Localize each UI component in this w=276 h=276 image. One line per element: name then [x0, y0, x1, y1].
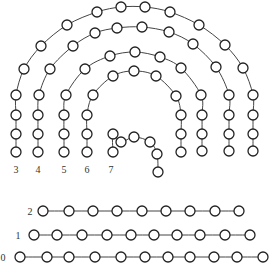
chain-node	[145, 137, 155, 147]
chain-1: 1	[16, 230, 256, 241]
chain-node	[59, 147, 69, 157]
chain-0: 0	[1, 252, 269, 263]
chain-label: 4	[36, 164, 41, 175]
chain-node	[116, 252, 126, 262]
chain-diagram: 34567210	[0, 0, 276, 276]
chain-node	[36, 41, 46, 51]
chain-node	[15, 252, 25, 262]
chain-node	[112, 23, 122, 33]
chain-node	[11, 129, 21, 139]
chain-node	[152, 149, 162, 159]
chain-node	[185, 252, 195, 262]
chain-node	[11, 147, 21, 157]
chain-node	[220, 40, 230, 50]
chain-3: 3	[11, 2, 258, 175]
chain-node	[116, 2, 126, 12]
chain-node	[62, 20, 72, 30]
chain-node	[165, 7, 175, 17]
chain-node	[11, 90, 21, 100]
chain-node	[102, 230, 112, 240]
chain-node	[137, 22, 147, 32]
chain-node	[176, 63, 186, 73]
chain-node	[155, 52, 165, 62]
chain-node	[248, 110, 258, 120]
chain-node	[90, 252, 100, 262]
chain-node	[52, 230, 62, 240]
chain-node	[195, 230, 205, 240]
chain-node	[248, 90, 258, 100]
chain-node	[82, 147, 92, 157]
chain-node	[64, 252, 74, 262]
chain-node	[211, 62, 221, 72]
chain-node	[33, 147, 43, 157]
chain-2: 2	[28, 206, 245, 217]
chain-node	[38, 206, 48, 216]
chain-node	[29, 230, 39, 240]
chain-node	[185, 206, 195, 216]
chain-label: 1	[16, 230, 21, 241]
chain-node	[59, 129, 69, 139]
chain-node	[210, 206, 220, 216]
chain-node	[197, 146, 207, 156]
chain-node	[33, 110, 43, 120]
chain-node	[68, 41, 78, 51]
chain-node	[258, 252, 268, 262]
chain-node	[176, 129, 186, 139]
chain-label: 3	[14, 164, 19, 175]
chain-node	[224, 110, 234, 120]
chain-node	[82, 110, 92, 120]
chain-node	[33, 129, 43, 139]
chain-node	[232, 252, 242, 262]
chain-node	[196, 90, 206, 100]
chain-node	[64, 206, 74, 216]
chain-node	[129, 132, 139, 142]
chain-node	[112, 206, 122, 216]
chain-label: 7	[109, 164, 114, 175]
chain-node	[161, 206, 171, 216]
chain-6: 6	[82, 66, 186, 175]
chain-node	[108, 71, 118, 81]
chain-node	[197, 110, 207, 120]
chain-node	[163, 252, 173, 262]
chain-node	[194, 20, 204, 30]
chain-node	[248, 129, 258, 139]
chain-node	[234, 206, 244, 216]
chain-node	[245, 230, 255, 240]
chain-node	[88, 206, 98, 216]
chain-node	[80, 64, 90, 74]
chain-node	[220, 230, 230, 240]
chain-node	[105, 51, 115, 61]
chain-node	[171, 91, 181, 101]
diagram-canvas: 34567210	[0, 0, 276, 276]
chain-node	[129, 66, 139, 76]
chain-node	[209, 252, 219, 262]
chain-node	[88, 90, 98, 100]
chain-node	[34, 90, 44, 100]
chain-node	[108, 147, 118, 157]
chain-node	[92, 7, 102, 17]
chain-node	[224, 129, 234, 139]
chain-node	[176, 147, 186, 157]
chain-node	[140, 2, 150, 12]
chain-node	[140, 252, 150, 262]
chain-node	[172, 230, 182, 240]
chain-node	[224, 90, 234, 100]
chain-node	[42, 252, 52, 262]
chain-7: 7	[108, 129, 163, 177]
chain-node	[90, 28, 100, 38]
chain-label: 2	[28, 206, 33, 217]
chain-bond-line	[15, 6, 253, 152]
chain-node	[45, 64, 55, 74]
chain-node	[61, 90, 71, 100]
chain-node	[149, 230, 159, 240]
chain-label: 5	[62, 164, 67, 175]
chain-node	[126, 230, 136, 240]
chain-node	[224, 146, 234, 156]
chain-node	[137, 206, 147, 216]
chain-label: 6	[85, 164, 90, 175]
chain-node	[59, 110, 69, 120]
chain-node	[19, 64, 29, 74]
chain-node	[153, 167, 163, 177]
chain-node	[151, 71, 161, 81]
chain-node	[82, 129, 92, 139]
